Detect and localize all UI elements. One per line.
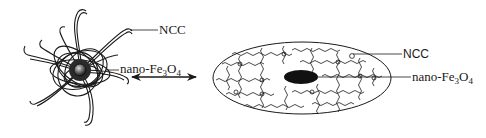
- fe3o4-label-left: nano-Fe3O4: [120, 61, 182, 78]
- ncc-label-right: NCC: [403, 47, 429, 61]
- ncc-label-left: NCC: [159, 22, 186, 37]
- left-ncc-flower: [24, 10, 132, 126]
- fe3o4-core-left: [74, 64, 86, 76]
- diagram-canvas: NCC nano-Fe3O4: [0, 0, 486, 138]
- fe3o4-label-right: nano-Fe3O4: [412, 69, 474, 86]
- fe3o4-core-right: [284, 70, 318, 84]
- right-ncc-network: [213, 42, 391, 114]
